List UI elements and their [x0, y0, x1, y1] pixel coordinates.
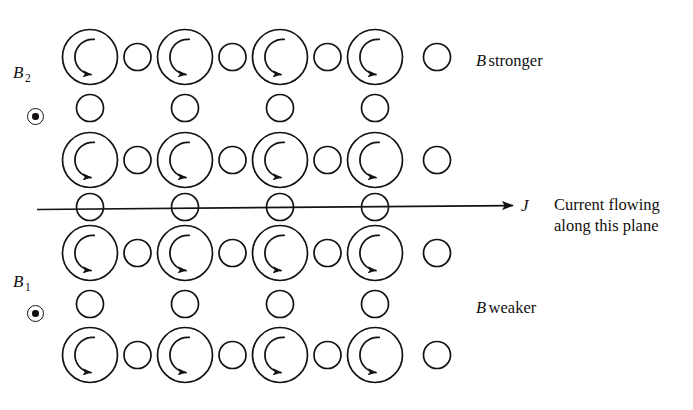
b1-label: B1 [13, 271, 30, 293]
b1-out-of-page-dot-icon [27, 305, 44, 322]
b-weaker-symbol: B [476, 298, 489, 317]
current-arrow [37, 206, 513, 210]
lattice-row-1 [63, 30, 451, 85]
current-note-line-2: along this plane [554, 215, 660, 236]
figure-canvas: B2 B1 Bstronger Bweaker J Current flowin… [0, 0, 693, 410]
b2-symbol: B [13, 63, 24, 82]
b2-subscript: 2 [25, 72, 31, 84]
lattice-connectors-3-4 [77, 291, 389, 318]
b2-out-of-page-dot-icon [27, 108, 44, 125]
current-plane-note: Current flowing along this plane [554, 194, 660, 236]
lattice-row-3 [63, 226, 451, 281]
lattice-connectors-1-2 [77, 95, 389, 122]
b-stronger-symbol: B [476, 51, 489, 70]
b-weaker-text: weaker [489, 298, 537, 317]
current-note-line-1: Current flowing [554, 195, 660, 214]
current-density-label: J [521, 195, 529, 217]
lattice-row-2 [63, 133, 451, 188]
b-stronger-label: Bstronger [476, 50, 543, 71]
lattice-row-4 [63, 328, 451, 383]
b1-symbol: B [13, 272, 24, 291]
b-weaker-label: Bweaker [476, 297, 536, 318]
b-stronger-text: stronger [489, 51, 543, 70]
b1-subscript: 1 [25, 281, 31, 293]
b2-label: B2 [13, 62, 30, 84]
